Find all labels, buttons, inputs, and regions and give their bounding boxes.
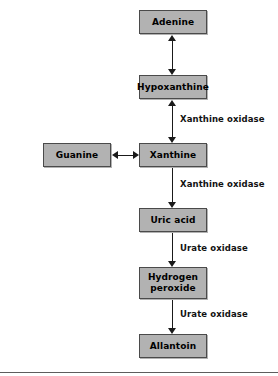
arrow-shaft [172, 168, 173, 202]
node-xanthine: Xanthine [139, 143, 207, 167]
arrow-adenine-hypoxanthine [167, 35, 178, 75]
edge-label-uric-acid-hydrogen-peroxide: Urate oxidase [180, 243, 248, 253]
node-hydrogen-peroxide-label-line2: peroxide [150, 283, 195, 294]
node-allantoin-label: Allantoin [150, 341, 197, 352]
bottom-divider [0, 372, 278, 373]
node-hypoxanthine: Hypoxanthine [139, 75, 207, 99]
arrowhead-right-icon [133, 151, 139, 159]
edge-label-xanthine-uric-acid: Xanthine oxidase [180, 179, 265, 189]
node-guanine-label: Guanine [56, 150, 99, 161]
arrowhead-down-icon [168, 202, 176, 208]
node-adenine-label: Adenine [152, 17, 194, 28]
node-allantoin: Allantoin [139, 334, 207, 358]
node-hypoxanthine-label: Hypoxanthine [137, 82, 209, 93]
arrowhead-down-icon [168, 261, 176, 267]
node-xanthine-label: Xanthine [150, 150, 197, 161]
edge-label-hydrogen-peroxide-allantoin: Urate oxidase [180, 309, 248, 319]
arrow-guanine-xanthine [112, 150, 139, 161]
arrow-shaft [172, 233, 173, 261]
arrow-hydrogen-peroxide-allantoin [167, 300, 178, 334]
arrow-shaft [172, 300, 173, 328]
arrow-xanthine-uric-acid [167, 168, 178, 208]
arrow-shaft [172, 105, 173, 138]
node-guanine: Guanine [43, 143, 111, 167]
arrow-shaft [117, 155, 134, 156]
arrow-shaft [172, 40, 173, 70]
arrowhead-down-icon [168, 69, 176, 75]
arrow-uric-acid-hydrogen-peroxide [167, 233, 178, 267]
arrow-hypoxanthine-xanthine [167, 100, 178, 143]
node-uric-acid: Uric acid [139, 208, 207, 232]
node-hydrogen-peroxide: Hydrogen peroxide [139, 267, 207, 299]
node-hydrogen-peroxide-label-line1: Hydrogen [148, 272, 198, 283]
edge-label-hypoxanthine-xanthine: Xanthine oxidase [180, 114, 265, 124]
node-adenine: Adenine [139, 10, 207, 34]
arrowhead-down-icon [168, 328, 176, 334]
node-uric-acid-label: Uric acid [150, 215, 195, 226]
arrowhead-down-icon [168, 137, 176, 143]
pathway-diagram: Adenine Hypoxanthine Guanine Xanthine Ur… [0, 0, 278, 376]
